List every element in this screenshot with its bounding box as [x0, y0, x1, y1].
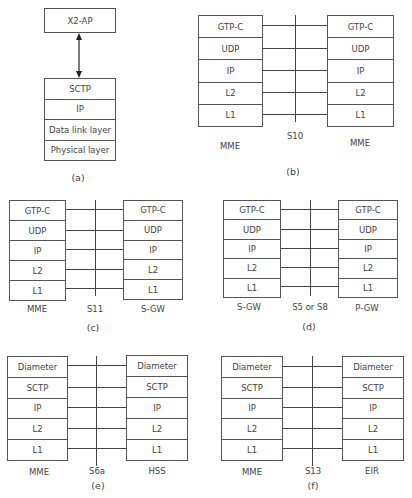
peer-link [68, 448, 126, 449]
layer-physical: Physical layer [45, 140, 115, 161]
layer: IP [222, 398, 282, 419]
peer-link [283, 407, 342, 408]
interface-line-s10 [295, 15, 296, 122]
peer-link [68, 365, 126, 366]
left-node-label: MME [242, 467, 262, 477]
layer: L1 [339, 278, 397, 297]
left-stack-mme: Diameter SCTP IP L2 L1 [221, 356, 283, 461]
layer: L2 [10, 260, 65, 280]
peer-link [283, 448, 342, 449]
right-node-label: P-GW [355, 303, 378, 313]
peer-link [68, 407, 126, 408]
layer: L2 [127, 418, 187, 439]
left-node-label: S-GW [237, 302, 261, 312]
layer: L2 [8, 418, 67, 439]
layer: UDP [10, 220, 65, 240]
right-stack-pgw: GTP-C UDP IP L2 L1 [338, 200, 398, 298]
caption-b: (b) [286, 166, 299, 177]
peer-link [263, 48, 327, 49]
layer: L1 [343, 439, 403, 460]
layer: L2 [343, 418, 403, 439]
layer: Diameter [343, 357, 403, 377]
peer-link [66, 230, 123, 231]
peer-link [263, 114, 327, 115]
interface-label: S5 or S8 [292, 302, 328, 312]
layer: IP [8, 398, 67, 419]
layer: L2 [222, 418, 282, 439]
right-stack-mme: GTP-C UDP IP L2 L1 [327, 15, 394, 127]
layer: L2 [224, 258, 280, 277]
layer: UDP [199, 37, 262, 59]
interface-line-s13 [312, 356, 313, 466]
peer-link [263, 25, 327, 26]
peer-link [283, 387, 342, 388]
peer-link [281, 229, 338, 230]
layer: Diameter [222, 357, 282, 377]
peer-link [283, 366, 342, 367]
layer: IP [10, 240, 65, 260]
layer: GTP-C [199, 16, 262, 37]
peer-link [263, 92, 327, 93]
peer-link [281, 267, 338, 268]
interface-label: S6a [89, 466, 105, 476]
peer-link [66, 249, 123, 250]
left-stack-sgw: GTP-C UDP IP L2 L1 [223, 200, 281, 298]
layer: L1 [328, 104, 393, 126]
interface-label: S11 [87, 304, 103, 314]
layer: Diameter [8, 357, 67, 377]
layer: IP [127, 397, 187, 418]
caption-a: (a) [71, 172, 84, 183]
interface-label: S13 [305, 466, 321, 476]
layer: GTP-C [328, 16, 393, 37]
right-stack-eir: Diameter SCTP IP L2 L1 [342, 356, 404, 461]
layer: IP [124, 240, 182, 260]
layer: SCTP [8, 377, 67, 398]
layer: IP [224, 239, 280, 258]
peer-link [66, 269, 123, 270]
layer: IP [328, 59, 393, 81]
caption-f: (f) [308, 480, 319, 491]
layer: IP [339, 239, 397, 258]
layer: L1 [127, 439, 187, 460]
layer: L1 [10, 280, 65, 300]
left-node-label: MME [220, 141, 240, 151]
layer: UDP [124, 220, 182, 240]
left-stack-mme: GTP-C UDP IP L2 L1 [198, 15, 263, 127]
layer-ip: IP [45, 99, 115, 120]
layer: UDP [328, 37, 393, 59]
layer-data-link: Data link layer [45, 119, 115, 140]
peer-link [263, 70, 327, 71]
layer: L2 [124, 259, 182, 279]
peer-link [66, 288, 123, 289]
interface-line-s6a [96, 356, 97, 466]
left-node-label: MME [27, 304, 47, 314]
layer-sctp: SCTP [45, 79, 115, 99]
layer: L2 [199, 82, 262, 104]
layer: SCTP [127, 376, 187, 397]
layer: L1 [199, 104, 262, 126]
left-stack-mme: GTP-C UDP IP L2 L1 [9, 200, 66, 301]
peer-link [66, 209, 123, 210]
caption-d: (d) [302, 321, 315, 332]
layer: IP [199, 59, 262, 81]
right-stack-sgw: GTP-C UDP IP L2 L1 [123, 200, 183, 300]
layer: GTP-C [10, 201, 65, 220]
layer: L1 [222, 439, 282, 460]
interface-line-s11 [95, 200, 96, 296]
left-stack-mme: Diameter SCTP IP L2 L1 [7, 356, 68, 461]
layer: SCTP [222, 377, 282, 398]
x2-protocol-stack: SCTP IP Data link layer Physical layer [44, 78, 116, 161]
layer: GTP-C [339, 201, 397, 219]
peer-link [281, 248, 338, 249]
peer-link [68, 387, 126, 388]
layer: L2 [339, 258, 397, 277]
layer: GTP-C [224, 201, 280, 219]
layer: L1 [124, 279, 182, 299]
caption-e: (e) [91, 480, 104, 491]
layer: UDP [224, 219, 280, 238]
left-node-label: MME [29, 467, 49, 477]
right-node-label: MME [350, 138, 370, 148]
layer: SCTP [343, 377, 403, 398]
right-node-label: S-GW [141, 304, 165, 314]
peer-link [281, 209, 338, 210]
